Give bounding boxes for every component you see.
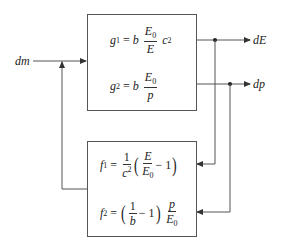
f1-one: 1 xyxy=(165,158,171,173)
g2-coef: b xyxy=(133,79,139,94)
f1-num2: E xyxy=(143,150,152,164)
f1-subscript: 1 xyxy=(103,161,107,170)
f2-fraction-2: p E0 xyxy=(166,198,177,228)
f1-fraction-2: E E0 xyxy=(142,150,153,180)
f1-den2-sub: 0 xyxy=(149,171,153,180)
f2-den2-sub: 0 xyxy=(174,219,178,228)
g2-subscript: 2 xyxy=(116,82,120,91)
g1-num-sub: 0 xyxy=(152,31,156,40)
f2-minus: − xyxy=(139,206,146,221)
f1-rparen: ) xyxy=(172,155,177,175)
g2-num-sub: 0 xyxy=(152,77,156,86)
f1-den1-sup: 2 xyxy=(127,165,131,174)
top-block-g: g1 = b E0 E c2 g2 = b E0 p xyxy=(87,14,197,111)
f1-num1: 1 xyxy=(123,151,131,165)
input-label-dm: dm xyxy=(15,54,30,69)
g2-fraction: E0 p xyxy=(144,71,157,101)
g1-fraction: E0 E xyxy=(144,25,157,55)
g2-equals: = xyxy=(123,79,130,94)
f1-fraction-1: 1 c2 xyxy=(122,151,131,179)
f2-lparen: ( xyxy=(121,203,126,223)
g2-den: p xyxy=(147,88,153,101)
f2-subscript: 2 xyxy=(103,209,107,218)
f2-rparen: ) xyxy=(156,203,161,223)
output-label-dE: dE xyxy=(253,33,266,48)
g1-equals: = xyxy=(123,33,130,48)
equation-g1: g1 = b E0 E c2 xyxy=(110,25,171,55)
f2-one: 1 xyxy=(149,206,155,221)
equation-f2: f2 = ( 1 b − 1 ) p E0 xyxy=(100,198,180,228)
equation-g2: g2 = b E0 p xyxy=(110,71,159,101)
g1-c-sup: 2 xyxy=(167,36,171,45)
f2-fraction-1: 1 b xyxy=(129,200,137,227)
f2-equals: = xyxy=(110,206,117,221)
f1-equals: = xyxy=(110,158,117,173)
f2-den1: b xyxy=(130,214,136,227)
g1-den: E xyxy=(147,42,154,55)
f2-num1: 1 xyxy=(129,200,137,214)
g1-coef: b xyxy=(133,33,139,48)
output-label-dp: dp xyxy=(253,77,265,92)
bottom-block-f: f1 = 1 c2 ( E E0 − 1 ) f2 = ( 1 b − 1 xyxy=(87,141,197,237)
f1-minus: − xyxy=(155,158,162,173)
equation-f1: f1 = 1 c2 ( E E0 − 1 ) xyxy=(100,150,178,180)
f2-num2: p xyxy=(168,198,176,212)
g1-subscript: 1 xyxy=(116,36,120,45)
f2-den2: E xyxy=(166,212,173,226)
block-diagram: dm dE dp g1 = b E0 E c2 g2 = b E0 p f1 = xyxy=(0,0,282,246)
f1-lparen: ( xyxy=(134,155,139,175)
